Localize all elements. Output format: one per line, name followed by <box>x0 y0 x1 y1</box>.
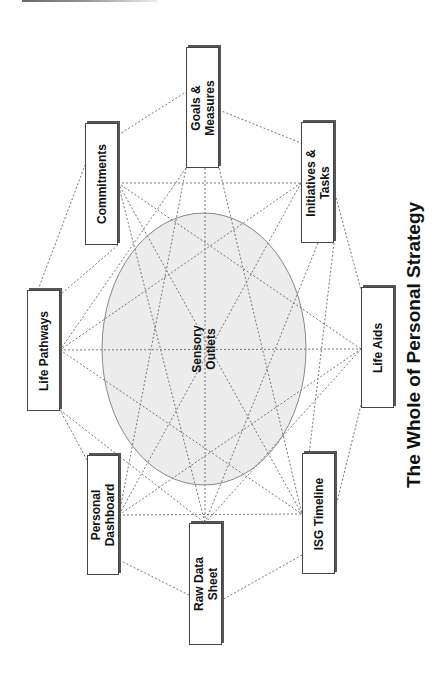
personal-strategy-diagram: Goals &Measures Commitments Life Pathway… <box>0 0 439 678</box>
node-label: Commitments <box>95 144 109 224</box>
node-label: ISG Timeline <box>312 477 326 549</box>
node-life-aids: Life Aids <box>361 287 394 408</box>
node-label: Life Aids <box>371 322 385 372</box>
node-raw-data-sheet: Raw DataSheet <box>189 523 222 645</box>
center-label-sensory-outlets: SensoryOutlets <box>190 325 218 372</box>
node-goals-measures: Goals &Measures <box>186 47 219 168</box>
node-label: Life Pathways <box>37 310 51 390</box>
node-label: PersonalDashboard <box>89 484 117 547</box>
node-label: Raw DataSheet <box>192 557 220 611</box>
node-label: Initiatives &Tasks <box>304 149 332 216</box>
node-label: Goals &Measures <box>189 80 217 135</box>
diagram-title: The Whole of Personal Strategy <box>403 202 425 488</box>
node-personal-dashboard: PersonalDashboard <box>87 455 119 575</box>
node-initiatives-tasks: Initiatives &Tasks <box>301 122 334 243</box>
node-life-pathways: Life Pathways <box>27 290 60 411</box>
node-commitments: Commitments <box>85 123 118 245</box>
node-isg-timeline: ISG Timeline <box>302 453 335 574</box>
